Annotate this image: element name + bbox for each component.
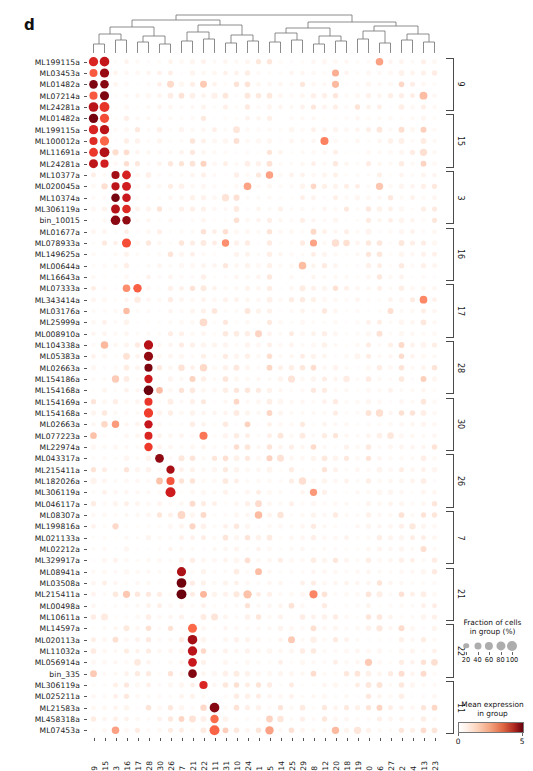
dot-cell[interactable] xyxy=(169,128,173,132)
dot-cell[interactable] xyxy=(100,57,110,67)
dot-cell[interactable] xyxy=(235,660,239,664)
dot-cell[interactable] xyxy=(201,331,206,336)
dot-cell[interactable] xyxy=(234,365,240,371)
dot-cell[interactable] xyxy=(91,683,95,687)
dot-cell[interactable] xyxy=(278,626,283,631)
dot-cell[interactable] xyxy=(421,59,426,64)
dot-cell[interactable] xyxy=(124,445,128,449)
dot-cell[interactable] xyxy=(190,138,196,144)
dot-cell[interactable] xyxy=(333,399,338,404)
dot-cell[interactable] xyxy=(113,705,117,709)
dot-cell[interactable] xyxy=(322,252,327,257)
dot-cell[interactable] xyxy=(157,705,162,710)
dot-cell[interactable] xyxy=(234,297,239,302)
dot-cell[interactable] xyxy=(289,535,294,540)
dot-cell[interactable] xyxy=(355,592,359,596)
dot-cell[interactable] xyxy=(432,184,437,189)
dot-cell[interactable] xyxy=(224,502,228,506)
dot-cell[interactable] xyxy=(179,59,184,64)
dot-cell[interactable] xyxy=(278,649,282,653)
dot-cell[interactable] xyxy=(300,614,306,620)
dot-cell[interactable] xyxy=(333,173,338,178)
dot-cell[interactable] xyxy=(213,660,217,664)
dot-cell[interactable] xyxy=(290,207,294,211)
dot-cell[interactable] xyxy=(102,263,107,268)
dot-cell[interactable] xyxy=(388,694,393,699)
dot-cell[interactable] xyxy=(411,547,415,551)
dot-cell[interactable] xyxy=(136,456,140,460)
dot-cell[interactable] xyxy=(432,128,436,132)
dot-cell[interactable] xyxy=(367,309,371,313)
dot-cell[interactable] xyxy=(432,649,437,654)
dot-cell[interactable] xyxy=(399,728,404,733)
dot-cell[interactable] xyxy=(410,717,414,721)
dot-cell[interactable] xyxy=(136,525,139,528)
dot-cell[interactable] xyxy=(179,195,184,200)
dot-cell[interactable] xyxy=(156,387,163,394)
dot-cell[interactable] xyxy=(124,490,128,494)
dot-cell[interactable] xyxy=(245,139,250,144)
dot-cell[interactable] xyxy=(388,445,393,450)
dot-cell[interactable] xyxy=(245,354,251,360)
dot-cell[interactable] xyxy=(279,196,283,200)
dot-cell[interactable] xyxy=(201,479,205,483)
dot-cell[interactable] xyxy=(312,706,316,710)
dot-cell[interactable] xyxy=(355,490,359,494)
dot-cell[interactable] xyxy=(377,705,383,711)
dot-cell[interactable] xyxy=(311,71,316,76)
dot-cell[interactable] xyxy=(101,341,109,349)
dot-cell[interactable] xyxy=(267,207,271,211)
dot-cell[interactable] xyxy=(179,467,184,472)
dot-cell[interactable] xyxy=(103,672,107,676)
dot-cell[interactable] xyxy=(354,727,361,734)
dot-cell[interactable] xyxy=(333,195,338,200)
dot-cell[interactable] xyxy=(157,365,162,370)
dot-cell[interactable] xyxy=(178,364,185,371)
dot-cell[interactable] xyxy=(366,444,372,450)
dot-cell[interactable] xyxy=(366,240,371,245)
dot-cell[interactable] xyxy=(102,581,107,586)
dot-cell[interactable] xyxy=(213,320,217,324)
dot-cell[interactable] xyxy=(289,705,294,710)
dot-cell[interactable] xyxy=(267,570,271,574)
dot-cell[interactable] xyxy=(311,468,315,472)
dot-cell[interactable] xyxy=(168,343,173,348)
dot-cell[interactable] xyxy=(323,547,327,551)
dot-cell[interactable] xyxy=(245,127,249,131)
dot-cell[interactable] xyxy=(410,218,415,223)
dot-cell[interactable] xyxy=(388,411,392,415)
dot-cell[interactable] xyxy=(91,343,96,348)
dot-cell[interactable] xyxy=(421,603,426,608)
dot-cell[interactable] xyxy=(300,705,306,711)
dot-cell[interactable] xyxy=(157,354,162,359)
dot-cell[interactable] xyxy=(113,672,117,676)
dot-cell[interactable] xyxy=(267,252,272,257)
dot-cell[interactable] xyxy=(188,658,197,667)
dot-cell[interactable] xyxy=(311,93,317,99)
dot-cell[interactable] xyxy=(245,150,249,154)
dot-cell[interactable] xyxy=(355,286,360,291)
dot-cell[interactable] xyxy=(147,139,151,143)
dot-cell[interactable] xyxy=(421,184,426,189)
dot-cell[interactable] xyxy=(124,365,130,371)
dot-cell[interactable] xyxy=(399,558,404,563)
dot-cell[interactable] xyxy=(311,275,316,280)
dot-cell[interactable] xyxy=(234,229,239,234)
dot-cell[interactable] xyxy=(190,342,195,347)
dot-cell[interactable] xyxy=(377,139,381,143)
dot-cell[interactable] xyxy=(223,682,229,688)
dot-cell[interactable] xyxy=(323,218,327,222)
dot-cell[interactable] xyxy=(135,309,139,313)
dot-cell[interactable] xyxy=(111,205,120,214)
dot-cell[interactable] xyxy=(267,512,272,517)
dot-cell[interactable] xyxy=(355,139,360,144)
dot-cell[interactable] xyxy=(356,173,360,177)
dot-cell[interactable] xyxy=(124,331,129,336)
dot-cell[interactable] xyxy=(113,343,118,348)
dot-cell[interactable] xyxy=(157,592,162,597)
dot-cell[interactable] xyxy=(399,184,404,189)
dot-cell[interactable] xyxy=(135,513,139,517)
dot-cell[interactable] xyxy=(169,173,173,177)
dot-cell[interactable] xyxy=(202,694,206,698)
dot-cell[interactable] xyxy=(180,116,184,120)
